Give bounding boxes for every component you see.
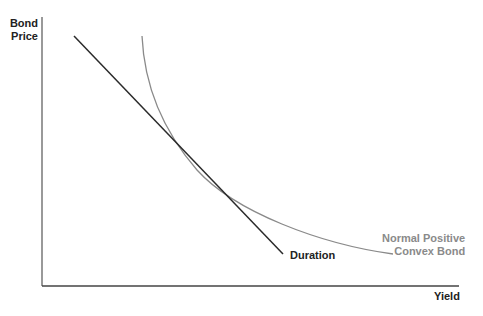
y-axis-label-line2: Price <box>10 30 38 43</box>
bond-price-yield-diagram <box>0 0 483 316</box>
x-axis-label: Yield <box>434 290 460 303</box>
y-axis-label: Bond Price <box>10 17 38 43</box>
convex-bond-label-line2: Convex Bond <box>382 245 465 258</box>
convex-bond-curve <box>142 36 393 254</box>
duration-label: Duration <box>290 249 335 262</box>
convex-bond-label: Normal Positive Convex Bond <box>382 232 465 258</box>
y-axis-label-line1: Bond <box>10 17 38 30</box>
duration-line <box>74 36 283 254</box>
convex-bond-label-line1: Normal Positive <box>382 232 465 245</box>
